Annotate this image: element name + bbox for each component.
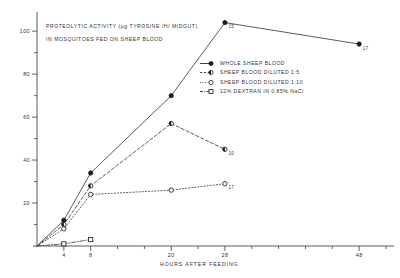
legend-swatch-dashed-half-circle xyxy=(200,68,216,77)
data-point xyxy=(88,171,92,175)
marker-filled-circle xyxy=(223,20,227,24)
marker-filled-circle xyxy=(169,93,173,97)
marker-filled-circle xyxy=(357,42,361,46)
marker-open-square xyxy=(62,242,66,246)
data-point xyxy=(88,184,92,188)
y-axis-tick-label: 80 xyxy=(23,71,30,77)
point-annotation: 17 xyxy=(228,185,234,190)
data-point xyxy=(62,222,66,226)
series-line xyxy=(37,23,359,246)
data-point xyxy=(169,188,173,192)
y-axis-tick-label: 60 xyxy=(23,114,30,120)
data-point xyxy=(88,192,92,196)
data-point xyxy=(169,93,173,97)
marker-open-circle xyxy=(169,188,173,192)
axis-layer xyxy=(32,12,394,251)
series-line xyxy=(37,184,225,246)
x-axis-tick-label: 20 xyxy=(168,252,175,258)
data-point xyxy=(223,147,227,151)
series-layer xyxy=(37,20,361,246)
y-axis-tick-label: 40 xyxy=(23,157,30,163)
marker-open-square xyxy=(89,237,93,241)
data-point xyxy=(62,227,66,231)
figure-title-line-2: IN MOSQUITOES FED ON SHEEP BLOOD xyxy=(46,36,163,42)
legend-swatch-dotted-open-circle xyxy=(200,78,216,87)
point-annotation: 17 xyxy=(363,46,369,51)
figure-title-line-1: PROTEOLYTIC ACTIVITY (µg TYROSINE /H/ MI… xyxy=(46,23,198,29)
legend-label: 12% DEXTRAN IN 0.85% NaCl xyxy=(220,88,304,94)
marker-filled-circle xyxy=(88,171,92,175)
legend-label: SHEEP BLOOD DILUTED 1:5 xyxy=(220,69,300,75)
data-point xyxy=(169,121,173,125)
marker-open-circle xyxy=(88,192,92,196)
x-axis-tick-label: 4 xyxy=(62,252,65,258)
figure-container: PROTEOLYTIC ACTIVITY (µg TYROSINE /H/ MI… xyxy=(0,0,400,278)
data-point xyxy=(223,182,227,186)
marker-open-circle xyxy=(62,227,66,231)
x-axis-tick-label: 28 xyxy=(222,252,229,258)
legend-swatch-dashdot-open-square xyxy=(200,87,216,96)
legend-label: WHOLE SHEEP BLOOD xyxy=(220,60,285,66)
marker-open-circle xyxy=(223,182,227,186)
data-point xyxy=(62,242,66,246)
legend-swatch-solid-filled-circle xyxy=(200,59,216,68)
x-axis-tick-label: 8 xyxy=(89,252,92,258)
x-axis-tick-label: 48 xyxy=(356,252,363,258)
point-annotation: 10 xyxy=(228,151,234,156)
data-point xyxy=(89,237,93,241)
point-annotation: 15 xyxy=(228,24,234,29)
data-point xyxy=(357,42,361,46)
x-axis-title: HOURS AFTER FEEDING xyxy=(160,261,239,267)
y-axis-tick-label: 20 xyxy=(23,200,30,206)
y-axis-tick-label: 100 xyxy=(20,28,30,34)
legend-label: SHEEP BLOOD DILUTED 1:10 xyxy=(220,79,303,85)
data-point xyxy=(223,20,227,24)
